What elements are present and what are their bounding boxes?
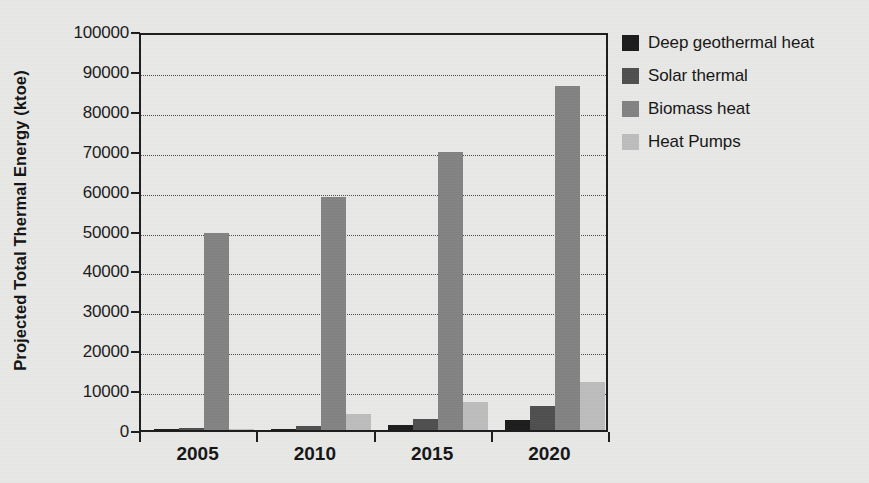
legend-item-deep-geothermal-heat: Deep geothermal heat — [622, 26, 862, 59]
y-axis-tick-mark — [131, 391, 140, 393]
x-axis-tick-mark — [256, 432, 258, 442]
y-axis-tick-mark — [131, 112, 140, 114]
bar-2020-deep-geothermal-heat — [505, 420, 530, 430]
bar-2015-biomass-heat — [438, 152, 463, 430]
chart-screenshot: Projected Total Thermal Energy (ktoe) 01… — [0, 0, 869, 483]
bar-2015-solar-thermal — [413, 419, 438, 430]
bar-2010-solar-thermal — [296, 426, 321, 430]
legend-item-biomass-heat: Biomass heat — [622, 92, 862, 125]
chart-legend: Deep geothermal heatSolar thermalBiomass… — [622, 26, 862, 158]
y-axis-tick-mark — [131, 32, 140, 34]
y-axis-tick-label: 30000 — [19, 302, 129, 322]
bar-2015-heat-pumps — [463, 402, 488, 430]
bar-layer — [141, 35, 606, 430]
y-axis-tick-label: 60000 — [19, 183, 129, 203]
bar-2010-heat-pumps — [346, 414, 371, 430]
bar-2005-biomass-heat — [204, 233, 229, 431]
bar-2020-solar-thermal — [530, 406, 555, 430]
y-axis-tick-label: 90000 — [19, 63, 129, 83]
y-axis-tick-label: 40000 — [19, 262, 129, 282]
y-axis-tick-label: 10000 — [19, 382, 129, 402]
legend-label: Solar thermal — [648, 66, 748, 86]
y-axis-tick-label: 50000 — [19, 223, 129, 243]
y-axis-tick-mark — [131, 72, 140, 74]
legend-label: Deep geothermal heat — [648, 33, 814, 53]
x-axis-tick-mark-origin — [139, 432, 141, 442]
y-axis-tick-labels: 0100002000030000400005000060000700008000… — [17, 33, 129, 432]
legend-item-solar-thermal: Solar thermal — [622, 59, 862, 92]
bar-2005-solar-thermal — [179, 428, 204, 430]
x-axis-tick-label-2010: 2010 — [255, 443, 375, 465]
bar-2005-heat-pumps — [229, 429, 254, 431]
x-axis-tick-mark — [374, 432, 376, 442]
bar-2020-heat-pumps — [580, 382, 605, 430]
y-axis-tick-label: 0 — [19, 422, 129, 442]
bar-2010-deep-geothermal-heat — [271, 429, 296, 431]
plot-area — [139, 33, 608, 432]
legend-swatch-icon — [622, 101, 639, 117]
legend-label: Heat Pumps — [648, 132, 741, 152]
x-axis-tick-mark — [491, 432, 493, 442]
legend-item-heat-pumps: Heat Pumps — [622, 125, 862, 158]
y-axis-tick-label: 70000 — [19, 143, 129, 163]
y-axis-tick-mark — [131, 311, 140, 313]
bar-2010-biomass-heat — [321, 197, 346, 430]
y-axis-tick-mark — [131, 351, 140, 353]
bar-2015-deep-geothermal-heat — [388, 425, 413, 430]
y-axis-tick-mark — [131, 152, 140, 154]
y-axis-tick-label: 100000 — [19, 23, 129, 43]
legend-swatch-icon — [622, 68, 639, 84]
y-axis-tick-mark — [131, 232, 140, 234]
bar-2020-biomass-heat — [555, 86, 580, 430]
x-axis-tick-label-2005: 2005 — [138, 443, 258, 465]
y-axis-tick-label: 80000 — [19, 103, 129, 123]
legend-swatch-icon — [622, 35, 639, 51]
x-axis-tick-label-2020: 2020 — [489, 443, 609, 465]
x-axis-tick-mark — [608, 432, 610, 442]
x-axis-tick-label-2015: 2015 — [372, 443, 492, 465]
legend-label: Biomass heat — [648, 99, 750, 119]
legend-swatch-icon — [622, 134, 639, 150]
y-axis-tick-label: 20000 — [19, 342, 129, 362]
y-axis-tick-mark — [131, 192, 140, 194]
y-axis-tick-mark — [131, 271, 140, 273]
bar-2005-deep-geothermal-heat — [154, 429, 179, 431]
